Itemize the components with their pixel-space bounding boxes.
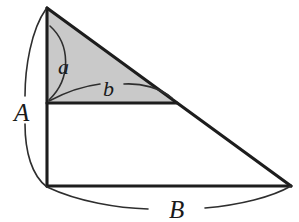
brace-arc-A-upper [25,9,46,96]
geometry-figure: A B a b [0,0,299,222]
brace-arc-B-right [205,186,291,208]
label-angle-a: a [58,54,69,79]
geometry-canvas: A B a b [0,0,299,222]
label-side-B: B [169,196,184,222]
brace-arc-B-left [47,187,148,209]
label-side-A: A [12,99,30,126]
label-angle-b: b [103,76,114,101]
brace-arc-A-lower [25,124,47,187]
